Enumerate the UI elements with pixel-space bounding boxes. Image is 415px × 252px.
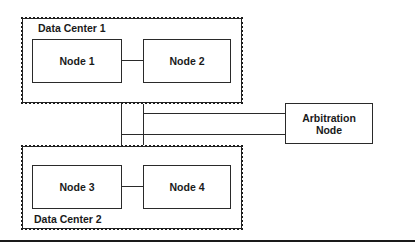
data-center-1-label: Data Center 1 [38, 22, 106, 34]
link-node3-node4 [122, 186, 143, 187]
arbitration-node-label-line1: Arbitration [302, 112, 356, 124]
node-1-label: Node 1 [59, 55, 94, 67]
node-2: Node 2 [143, 39, 231, 83]
arbitration-node-label-line2: Node [316, 124, 342, 136]
node-2-label: Node 2 [169, 55, 204, 67]
node-3-label: Node 3 [59, 181, 94, 193]
arbitration-node: Arbitration Node [285, 103, 373, 144]
data-center-2-label: Data Center 2 [34, 213, 102, 225]
connector-to-arbitration-lower [121, 134, 285, 135]
link-node1-node2 [122, 60, 143, 61]
node-3: Node 3 [32, 165, 122, 209]
node-1: Node 1 [32, 39, 122, 83]
node-4-label: Node 4 [169, 181, 204, 193]
node-4: Node 4 [143, 165, 231, 209]
connector-vertical-right [143, 104, 144, 145]
bottom-divider [0, 240, 415, 242]
connector-vertical-left [121, 104, 122, 145]
connector-to-arbitration-upper [143, 113, 285, 114]
